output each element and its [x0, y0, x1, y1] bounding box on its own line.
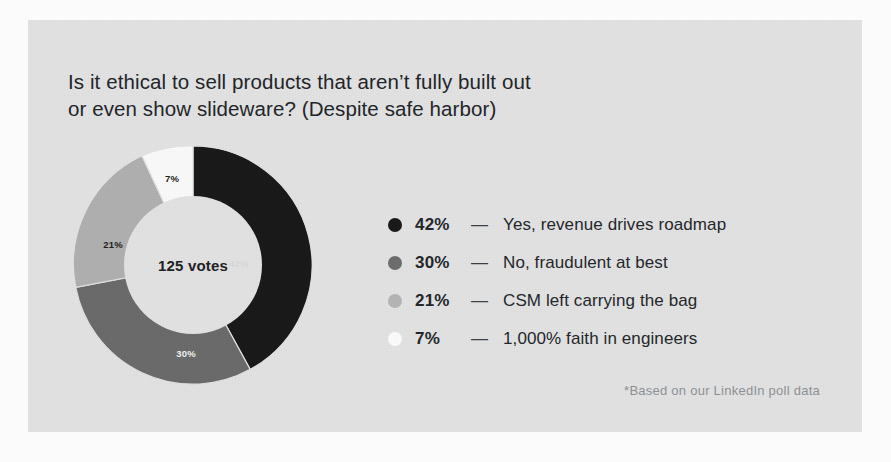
legend-dash-separator: — — [471, 329, 503, 349]
legend-dash-separator: — — [471, 253, 503, 273]
legend-label: Yes, revenue drives roadmap — [503, 215, 726, 235]
donut-slice-label-3: 7% — [165, 173, 179, 184]
legend-label: No, fraudulent at best — [503, 253, 668, 273]
donut-center-label: 125 votes — [158, 257, 228, 274]
legend-item-no-fraudulent-at-best[interactable]: 30% — No, fraudulent at best — [388, 244, 726, 282]
legend-swatch-icon — [388, 256, 402, 270]
legend-swatch-icon — [388, 294, 402, 308]
legend-percent: 30% — [415, 253, 471, 273]
legend-item-csm-left-carrying-the-bag[interactable]: 21% — CSM left carrying the bag — [388, 282, 726, 320]
legend-swatch-icon — [388, 332, 402, 346]
donut-slice-label-2: 21% — [103, 239, 123, 250]
legend-dash-separator: — — [471, 215, 503, 235]
legend-dash-separator: — — [471, 291, 503, 311]
donut-slice-label-1: 30% — [176, 348, 196, 359]
donut-chart-svg: 42% 30% 21% 7% 125 votes — [73, 145, 313, 385]
legend-label: CSM left carrying the bag — [503, 291, 697, 311]
donut-chart: 42% 30% 21% 7% 125 votes — [73, 145, 313, 385]
source-footnote: *Based on our LinkedIn poll data — [624, 383, 820, 398]
legend-percent: 21% — [415, 291, 471, 311]
legend-item-yes-revenue-drives-roadmap[interactable]: 42% — Yes, revenue drives roadmap — [388, 206, 726, 244]
legend-percent: 42% — [415, 215, 471, 235]
page-title: Is it ethical to sell products that aren… — [68, 68, 668, 122]
legend-swatch-icon — [388, 218, 402, 232]
legend-percent: 7% — [415, 329, 471, 349]
legend: 42% — Yes, revenue drives roadmap 30% — … — [388, 206, 726, 358]
screenshot-root: Is it ethical to sell products that aren… — [0, 0, 891, 462]
legend-item-1000-faith-in-engineers[interactable]: 7% — 1,000% faith in engineers — [388, 320, 726, 358]
donut-slice-label-0: 42% — [229, 258, 249, 269]
legend-label: 1,000% faith in engineers — [503, 329, 697, 349]
poll-result-card: Is it ethical to sell products that aren… — [28, 20, 862, 432]
